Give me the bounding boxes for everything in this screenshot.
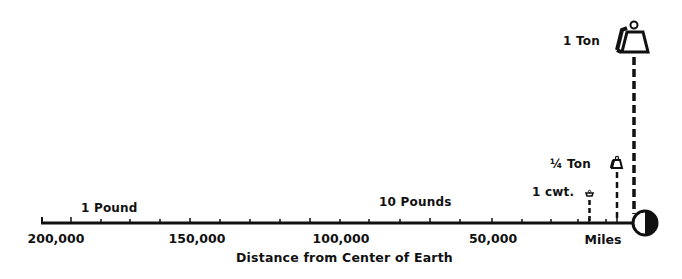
label-1-pound: 1 Pound [81, 201, 138, 215]
tick-label-200000: 200,000 [28, 231, 85, 246]
cwt-weight-icon [586, 190, 593, 221]
label-quarter-ton: ¼ Ton [550, 157, 591, 171]
distance-axis [41, 217, 632, 224]
one-ton-weight-icon [617, 22, 648, 215]
label-1-ton: 1 Ton [563, 34, 600, 48]
label-1-cwt: 1 cwt. [532, 185, 574, 199]
label-10-pounds: 10 Pounds [379, 195, 452, 209]
quarter-ton-weight-icon [611, 156, 622, 221]
axis-unit-label: Miles [585, 232, 622, 247]
weight-vs-distance-diagram: 1 Pound 10 Pounds 1 cwt. ¼ Ton 1 Ton 200… [0, 0, 682, 279]
tick-label-100000: 100,000 [313, 231, 370, 246]
tick-label-150000: 150,000 [169, 231, 226, 246]
tick-label-50000: 50,000 [469, 231, 517, 246]
axis-title: Distance from Center of Earth [236, 250, 453, 265]
earth-icon [633, 211, 657, 235]
